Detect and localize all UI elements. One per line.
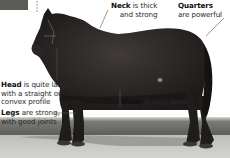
head-annotation: Head is quite large, with a straight or … <box>1 81 71 107</box>
head-term: Head <box>1 80 22 89</box>
horse-photo <box>0 0 230 158</box>
body-annotation: Body is very deep <box>122 98 187 107</box>
quarters-term: Quarters <box>178 1 213 10</box>
legs-annotation: Legs are strong, with good joints <box>1 109 60 126</box>
background-patch <box>0 0 28 10</box>
body-term: Body <box>122 97 142 106</box>
quarters-annotation: Quarters are powerful <box>178 2 222 19</box>
legs-term: Legs <box>1 108 19 117</box>
neck-term: Neck <box>111 1 131 10</box>
neck-annotation: Neck is thick and strong <box>111 2 157 19</box>
